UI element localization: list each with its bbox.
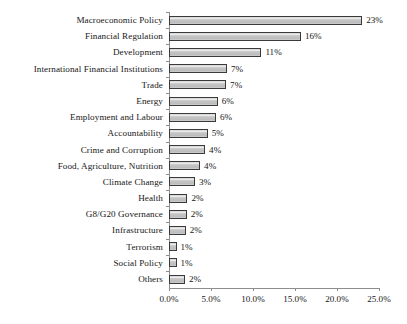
bar — [169, 48, 261, 57]
bar-value-label: 1% — [181, 239, 193, 255]
bar-and-label: 2% — [169, 206, 203, 222]
category-label: Financial Regulation — [0, 28, 166, 44]
bar — [169, 113, 216, 122]
category-label: Infrastructure — [0, 222, 166, 238]
bar-row: Trade7% — [0, 77, 407, 93]
bar — [169, 177, 195, 186]
x-axis-tick-label: 20.0% — [325, 293, 349, 305]
bar-and-label: 2% — [169, 222, 202, 238]
bar-value-label: 4% — [204, 158, 216, 174]
bar-value-label: 11% — [265, 44, 281, 60]
bar-chart: Macroeconomic Policy23%Financial Regulat… — [0, 0, 407, 324]
bar-and-label: 2% — [169, 190, 204, 206]
bar-and-label: 11% — [169, 44, 282, 60]
bar-and-label: 6% — [169, 109, 232, 125]
bar-and-label: 5% — [169, 125, 224, 141]
category-label: Health — [0, 190, 166, 206]
category-label: Terrorism — [0, 239, 166, 255]
x-axis-tick-label: 0.0% — [160, 293, 179, 305]
category-label: Employment and Labour — [0, 109, 166, 125]
bar-row: Others2% — [0, 271, 407, 287]
x-axis-tick — [379, 288, 380, 291]
x-axis-tick — [337, 288, 338, 291]
bar-and-label: 1% — [169, 239, 193, 255]
bar-value-label: 2% — [189, 271, 201, 287]
bar-and-label: 7% — [169, 61, 243, 77]
category-label: Social Policy — [0, 255, 166, 271]
bar-value-label: 2% — [190, 222, 202, 238]
category-label: Food, Agriculture, Nutrition — [0, 158, 166, 174]
bar-and-label: 4% — [169, 158, 216, 174]
bar-and-label: 23% — [169, 12, 383, 28]
category-label: Accountability — [0, 125, 166, 141]
bar — [169, 97, 218, 106]
bar — [169, 80, 226, 89]
x-axis-tick-label: 25.0% — [367, 293, 391, 305]
bar-row: Energy6% — [0, 93, 407, 109]
bar — [169, 258, 177, 267]
bar — [169, 145, 205, 154]
bar — [169, 210, 187, 219]
bar-and-label: 4% — [169, 142, 221, 158]
bar-and-label: 6% — [169, 93, 234, 109]
bar-row: Employment and Labour6% — [0, 109, 407, 125]
bar-value-label: 7% — [230, 77, 242, 93]
x-axis-tick — [295, 288, 296, 291]
bar-value-label: 3% — [199, 174, 211, 190]
category-label: Trade — [0, 77, 166, 93]
bar-value-label: 4% — [209, 142, 221, 158]
x-axis-tick-label: 10.0% — [241, 293, 265, 305]
bar-row: Development11% — [0, 44, 407, 60]
bar-and-label: 16% — [169, 28, 322, 44]
category-label: G8/G20 Governance — [0, 206, 166, 222]
bar-row: International Financial Institutions7% — [0, 61, 407, 77]
bar — [169, 161, 200, 170]
x-axis-tick — [253, 288, 254, 291]
bar — [169, 129, 208, 138]
bar-row: Health2% — [0, 190, 407, 206]
bar-and-label: 2% — [169, 271, 201, 287]
x-axis-tick-label: 5.0% — [202, 293, 221, 305]
bar-value-label: 6% — [222, 93, 234, 109]
x-axis-tick — [169, 288, 170, 291]
bar-row: Macroeconomic Policy23% — [0, 12, 407, 28]
bar-rows: Macroeconomic Policy23%Financial Regulat… — [0, 12, 407, 287]
bar-and-label: 7% — [169, 77, 242, 93]
bar — [169, 242, 177, 251]
category-label: Macroeconomic Policy — [0, 12, 166, 28]
plot-area: Macroeconomic Policy23%Financial Regulat… — [0, 0, 407, 324]
bar — [169, 32, 301, 41]
bar-value-label: 7% — [231, 61, 243, 77]
bar-value-label: 5% — [212, 125, 224, 141]
bar-row: Accountability5% — [0, 125, 407, 141]
bar — [169, 194, 187, 203]
bar — [169, 64, 227, 73]
bar-row: Social Policy1% — [0, 255, 407, 271]
bar-row: Food, Agriculture, Nutrition4% — [0, 158, 407, 174]
bar-row: Infrastructure2% — [0, 222, 407, 238]
bar-value-label: 6% — [220, 109, 232, 125]
bar-value-label: 1% — [181, 255, 193, 271]
category-label: Crime and Corruption — [0, 142, 166, 158]
bar-row: G8/G20 Governance2% — [0, 206, 407, 222]
category-label: Others — [0, 271, 166, 287]
bar-value-label: 2% — [191, 190, 203, 206]
x-axis-ticks: 0.0%5.0%10.0%15.0%20.0%25.0% — [0, 288, 407, 318]
bar — [169, 226, 186, 235]
bar — [169, 16, 362, 25]
category-label: International Financial Institutions — [0, 61, 166, 77]
bar-value-label: 2% — [191, 206, 203, 222]
bar-value-label: 16% — [305, 28, 322, 44]
x-axis-tick — [211, 288, 212, 291]
bar-row: Financial Regulation16% — [0, 28, 407, 44]
bar-row: Climate Change3% — [0, 174, 407, 190]
bar-value-label: 23% — [366, 12, 383, 28]
bar-and-label: 3% — [169, 174, 211, 190]
bar — [169, 275, 185, 284]
bar-row: Terrorism1% — [0, 239, 407, 255]
bar-row: Crime and Corruption4% — [0, 142, 407, 158]
x-axis-tick-label: 15.0% — [283, 293, 307, 305]
category-label: Energy — [0, 93, 166, 109]
bar-and-label: 1% — [169, 255, 193, 271]
category-label: Development — [0, 44, 166, 60]
